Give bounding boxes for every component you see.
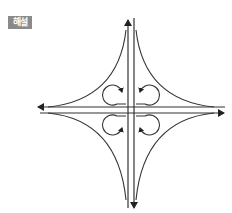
loop-top-left [102,85,126,105]
main-roads [38,18,225,208]
interchange-diagram [0,0,232,213]
curve-top-left [48,30,126,107]
loop-bottom-right [136,115,160,135]
loop-bottom-left [102,115,126,135]
flare-curves [48,30,214,200]
curve-bottom-left [48,113,126,200]
loop-ramps [102,85,159,135]
curve-top-right [136,30,214,107]
loop-top-right [136,85,160,105]
curve-bottom-right [136,113,214,200]
